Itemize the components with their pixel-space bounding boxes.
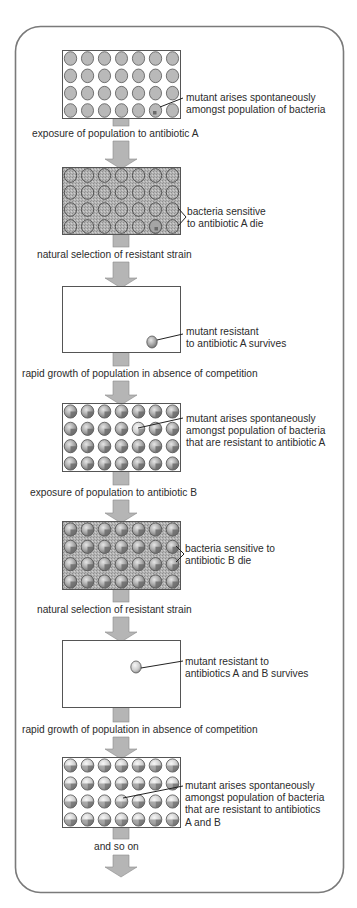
surviving-mutant-cell [131,661,141,673]
flow-arrow-shaft [113,471,129,485]
mutant-cell [149,104,161,118]
flow-arrow-icon [105,737,137,759]
bacterium-cell [115,86,127,100]
population-box-4 [63,404,181,472]
bacterium-cell [81,104,93,118]
bacterium-cell [166,52,178,66]
annotation-line: that are resistant to antibiotic A [186,437,325,449]
flow-arrow-icon [105,381,137,405]
annotation-line: mutant arises spontaneously [186,413,325,425]
bacterium-cell [81,86,93,100]
annotation-line: amongst population of bacteria [186,425,325,437]
annotation-line: mutant arises spontaneously [185,780,324,792]
stage-annotation-1: mutant arises spontaneouslyamongst popul… [186,92,325,116]
bacterium-cell [64,86,76,100]
stage-annotation-5: bacteria sensitive toantibiotic B die [185,543,275,567]
stage-annotation-7: mutant arises spontaneouslyamongst popul… [185,780,324,829]
annotation-line: mutant resistant to [185,656,308,668]
stage-annotation-6: mutant resistant toantibiotics A and B s… [185,656,308,680]
bacterium-cell [98,86,110,100]
flow-arrow-shaft [113,234,129,247]
bacterium-cell [81,52,93,66]
annotation-line: bacteria sensitive to [185,543,275,555]
bacterium-cell [115,52,127,66]
annotation-line: amongst population of bacteria [185,792,324,804]
bacterium-cell [64,69,76,83]
bacterium-cell [166,104,178,118]
stage-annotation-3: mutant resistantto antibiotic A survives [186,326,286,350]
bacterium-cell [149,69,161,83]
flow-arrow-icon [105,141,137,169]
flow-arrow-icon [105,855,137,877]
population-box-2 [63,168,181,235]
annotation-line: to antibiotic A die [187,218,266,230]
bacterium-cell [98,104,110,118]
flow-arrow-icon [105,617,137,642]
bacterium-cell [64,104,76,118]
annotation-line: bacteria sensitive [187,206,266,218]
transition-label-6: rapid growth of population in absence of… [22,724,258,736]
flow-arrow-shaft [113,827,129,839]
transition-label-4: exposure of population to antibiotic B [30,487,197,499]
population-box-1 [63,51,181,119]
annotation-line: antibiotics A and B survives [185,668,308,680]
surviving-mutant-cell [147,336,157,348]
bacterium-cell [149,86,161,100]
flow-arrow-shaft [113,707,129,722]
population-box-6 [63,641,181,708]
flow-arrow-icon [105,500,137,523]
bacterium-cell [98,69,110,83]
population-box-3 [63,287,181,353]
stage-annotation-4: mutant arises spontaneouslyamongst popul… [186,413,325,450]
bacterium-cell [64,52,76,66]
bacterium-cell [115,69,127,83]
transition-label-7: and so on [94,841,139,853]
bacterium-cell [132,52,144,66]
population-box-5 [63,522,181,590]
flow-arrow-icon [105,262,137,288]
bacterium-cell [132,104,144,118]
bacterium-cell [98,52,110,66]
population-box-7 [63,758,181,828]
annotation-line: amongst population of bacteria [186,104,325,116]
annotation-line: to antibiotic A survives [186,338,286,350]
annotation-line: mutant resistant [186,326,286,338]
flow-arrow-shaft [113,352,129,366]
annotation-line: mutant arises spontaneously [186,92,325,104]
bacterium-cell [149,52,161,66]
bacterium-cell [132,69,144,83]
antibiotic-resistance-diagram: exposure of population to antibiotic Ana… [0,0,357,908]
bacterium-cell [132,86,144,100]
transition-label-3: rapid growth of population in absence of… [22,368,258,380]
flow-arrow-shaft [113,589,129,602]
stage-annotation-2: bacteria sensitiveto antibiotic A die [187,206,266,230]
bacterium-cell [115,104,127,118]
bacterium-cell [166,86,178,100]
annotation-line: that are resistant to antibiotics [185,804,324,816]
transition-label-2: natural selection of resistant strain [37,249,192,261]
transition-label-1: exposure of population to antibiotic A [32,128,199,140]
bacterium-cell [166,69,178,83]
annotation-line: antibiotic B die [185,555,275,567]
flow-arrow-shaft [113,118,129,126]
bacterium-cell [81,69,93,83]
transition-label-5: natural selection of resistant strain [37,604,192,616]
annotation-line: A and B [185,817,324,829]
